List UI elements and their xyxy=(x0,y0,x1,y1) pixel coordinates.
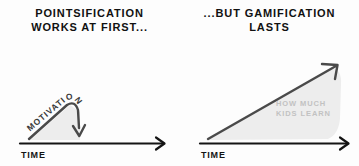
infographic-canvas: POINTSIFICATION WORKS AT FIRST... MOTIVA… xyxy=(0,0,359,166)
time-axis-label: TIME xyxy=(21,150,46,160)
panel-right-chart: HOW MUCH KIDS LEARN TIME xyxy=(180,0,359,166)
panel-pointsification: POINTSIFICATION WORKS AT FIRST... MOTIVA… xyxy=(0,0,179,166)
panel-gamification: ...BUT GAMIFICATION LASTS HOW MUCH KIDS … xyxy=(180,0,359,166)
time-axis-label: TIME xyxy=(201,150,226,160)
learning-area-label-line1: HOW MUCH xyxy=(276,99,326,108)
learning-area-label-line2: KIDS LEARN xyxy=(276,109,331,118)
panel-left-chart: MOTIVATION TIME xyxy=(0,0,179,166)
